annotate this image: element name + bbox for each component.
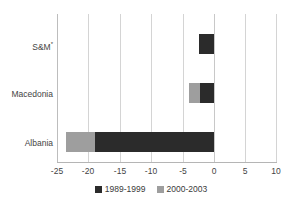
- y-label-sm: S&M*: [32, 41, 53, 51]
- y-label-macedonia: Macedonia: [11, 90, 53, 99]
- y-label-sm-text: S&M: [32, 42, 50, 52]
- legend-label-1989-1999: 1989-1999: [105, 184, 146, 194]
- y-axis-labels: S&M* Macedonia Albania: [0, 14, 53, 162]
- legend-item-2000-2003: 2000-2003: [157, 184, 208, 194]
- x-tick-5: 5: [243, 166, 248, 176]
- x-tick--15: -15: [114, 166, 126, 176]
- bar-segment-macedonia-2000-2003: [189, 83, 200, 103]
- cropped-title-remnant: [128, 0, 144, 4]
- bar-chart: S&M* Macedonia Albania -25 -20: [0, 0, 302, 201]
- plot-area: [57, 14, 277, 162]
- bar-segment-albania-2000-2003: [66, 132, 95, 152]
- x-axis-tick-labels: -25 -20 -15 -10 -5 0 5 10: [57, 166, 277, 180]
- bar-segment-macedonia-1989-1999: [200, 83, 214, 103]
- x-tick--5: -5: [179, 166, 187, 176]
- legend-item-1989-1999: 1989-1999: [95, 184, 146, 194]
- x-tick--20: -20: [82, 166, 94, 176]
- x-tick--10: -10: [145, 166, 157, 176]
- bar-row-albania: [57, 132, 277, 152]
- x-tick-0: 0: [212, 166, 217, 176]
- y-label-albania: Albania: [25, 139, 53, 148]
- bar-segment-sm-1989-1999: [199, 34, 214, 54]
- bar-row-sm: [57, 34, 277, 54]
- dark-square-icon: [95, 186, 102, 193]
- bar-row-macedonia: [57, 83, 277, 103]
- bar-segment-albania-1989-1999: [95, 132, 214, 152]
- chart-legend: 1989-1999 2000-2003: [0, 184, 302, 194]
- x-tick-10: 10: [271, 166, 280, 176]
- x-axis-line: [57, 162, 277, 163]
- gray-square-icon: [157, 186, 164, 193]
- y-label-sm-asterisk: *: [51, 41, 53, 47]
- legend-label-2000-2003: 2000-2003: [167, 184, 208, 194]
- x-tick--25: -25: [51, 166, 63, 176]
